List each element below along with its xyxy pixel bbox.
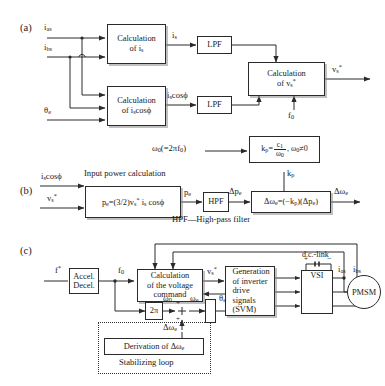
section-label-a: (a) bbox=[20, 22, 32, 33]
signal-label-f-ref: f* bbox=[55, 265, 61, 275]
summing-junction-cross bbox=[178, 307, 186, 315]
signal-label-delta-omega-e-c: Δωe bbox=[163, 323, 177, 333]
derivation-block: Derivation of Δωe bbox=[104, 338, 204, 355]
signal-label-ias-c: ias bbox=[338, 265, 346, 275]
signal-label-kp: kp bbox=[287, 169, 294, 179]
vsi-block: VSI bbox=[301, 270, 333, 314]
figure-root: (a) /*pos via style below*/ ias ibs θe C… bbox=[0, 0, 385, 386]
signal-label-delta-omega-e: Δωe bbox=[334, 187, 348, 197]
signal-label-vs-ref: vs* bbox=[332, 64, 342, 75]
signal-label-is-cos-phi: iscosϕ bbox=[167, 91, 188, 101]
signal-label-delta-pe: Δpe bbox=[229, 187, 242, 197]
signal-label-theta-e-c: θe bbox=[219, 294, 226, 304]
signal-label-omega0: ω0(=2πf0) bbox=[152, 144, 186, 154]
signal-label-ibs-c: ibs bbox=[353, 265, 361, 275]
lpf-upper-block: LPF bbox=[197, 36, 232, 54]
lpf-lower-block: LPF bbox=[197, 96, 232, 114]
hpf-block: HPF bbox=[203, 192, 229, 212]
signal-label-pe: pe bbox=[184, 188, 191, 198]
kp-gain-block: kp= c1ω0 , ω0≠0 bbox=[249, 136, 320, 163]
integrator-block bbox=[205, 299, 216, 323]
signal-label-is-cos-phi-b: iscosϕ bbox=[41, 172, 62, 182]
delta-omega-block: Δωe=(−kp)(Δpe) bbox=[251, 191, 331, 213]
signal-label-omega0-c: ω0 bbox=[163, 294, 172, 304]
section-label-c: (c) bbox=[20, 245, 32, 256]
signal-label-vs-ref-c: vs* bbox=[207, 266, 217, 277]
signal-label-ibs: ibs bbox=[44, 43, 52, 53]
stabilizing-loop-label: Stabilizing loop bbox=[119, 358, 174, 367]
accel-decel-block: Accel.Decel. bbox=[69, 268, 99, 294]
signal-label-f0-c: f0 bbox=[118, 266, 124, 276]
svm-generation-block: Generationof inverterdrivesignals(SVM) bbox=[225, 266, 275, 316]
dc-minus-label: − bbox=[327, 255, 332, 263]
calculation-of-is-cos-phi-block: Calculationof iscosϕ bbox=[107, 86, 166, 126]
signal-label-omega-e: ωe bbox=[190, 294, 198, 304]
signal-label-f0-a: f0 bbox=[288, 111, 294, 121]
section-label-b: (b) bbox=[20, 185, 32, 196]
sum-plus-top: + bbox=[176, 299, 180, 307]
pmsm-machine: PMSM bbox=[347, 275, 381, 309]
signal-label-is: is bbox=[172, 31, 177, 41]
input-power-block: pe=(3/2)vs* is cosϕ bbox=[85, 186, 181, 218]
calculation-of-vs-ref-block: Calculationof vs* bbox=[248, 62, 325, 96]
calculation-of-is-block: Calculationof is bbox=[107, 24, 166, 64]
hpf-caption: HPF—High-pass filter bbox=[172, 215, 250, 224]
dc-plus-label: + bbox=[304, 256, 308, 263]
signal-label-ias: ias bbox=[44, 23, 52, 33]
signal-label-theta-e: θe bbox=[44, 106, 51, 116]
panel-b-heading: Input power calculation bbox=[84, 169, 166, 178]
two-pi-gain-block: 2π bbox=[145, 302, 163, 320]
signal-label-vs-ref-b: vs* bbox=[47, 193, 57, 204]
